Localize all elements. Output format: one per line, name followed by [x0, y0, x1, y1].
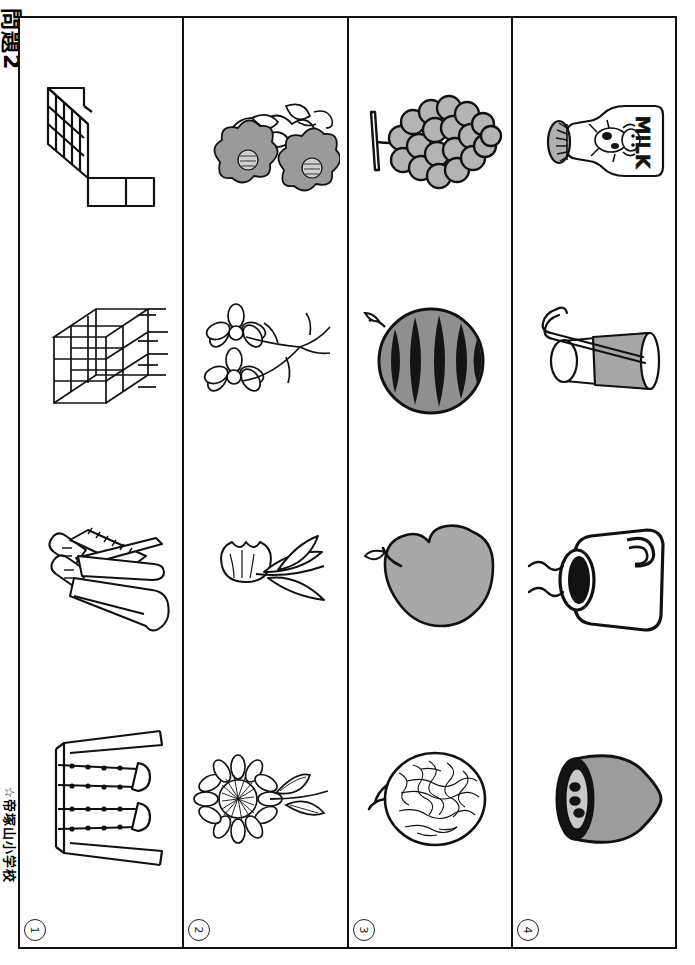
sunflower-icon — [190, 723, 340, 873]
worksheet-row-4: 4 — [513, 18, 675, 947]
camellia-icon — [190, 66, 340, 216]
worksheet-row-1: 1 — [20, 18, 184, 947]
milk-bottle-icon: MILK — [519, 66, 669, 216]
cell-camellia[interactable] — [186, 32, 344, 251]
cell-cosmos[interactable] — [186, 251, 344, 470]
row-number-3: 3 — [353, 919, 375, 941]
cell-tulip[interactable] — [186, 470, 344, 689]
row-number-1: 1 — [24, 919, 46, 941]
melon-icon — [355, 723, 505, 873]
row-number-4: 4 — [517, 919, 539, 941]
tulip-icon — [190, 504, 340, 654]
cell-milk-bottle[interactable]: MILK — [515, 32, 673, 251]
grapes-icon — [355, 66, 505, 216]
cell-stairs[interactable] — [22, 32, 180, 251]
cell-jungle-gym[interactable] — [22, 251, 180, 470]
cell-soup-bowl[interactable] — [515, 688, 673, 907]
cell-melon[interactable] — [351, 688, 509, 907]
cell-juice-glass[interactable] — [515, 251, 673, 470]
stairs-icon — [26, 66, 176, 216]
cell-sunflower[interactable] — [186, 688, 344, 907]
mug-icon — [519, 504, 669, 654]
cell-apple[interactable] — [351, 470, 509, 689]
cell-coffee-cup[interactable] — [515, 470, 673, 689]
swing-icon — [26, 723, 176, 873]
cell-watermelon[interactable] — [351, 251, 509, 470]
worksheet-grid: 1 — [18, 16, 677, 949]
watermelon-icon — [355, 285, 505, 435]
apple-icon — [355, 504, 505, 654]
daisy-icon — [190, 285, 340, 435]
cell-swing[interactable] — [22, 688, 180, 907]
school-name-label: ☆帝塚山小学校 — [3, 787, 16, 917]
worksheet-row-3: 3 — [349, 18, 513, 947]
jungle-gym-icon — [26, 285, 176, 435]
milk-wordmark: MILK — [631, 116, 653, 170]
slide-icon — [26, 504, 176, 654]
cell-grapes[interactable] — [351, 32, 509, 251]
cell-slide[interactable] — [22, 470, 180, 689]
bowl-icon — [519, 723, 669, 873]
worksheet-row-2: 2 — [184, 18, 348, 947]
glass-straw-icon — [519, 285, 669, 435]
